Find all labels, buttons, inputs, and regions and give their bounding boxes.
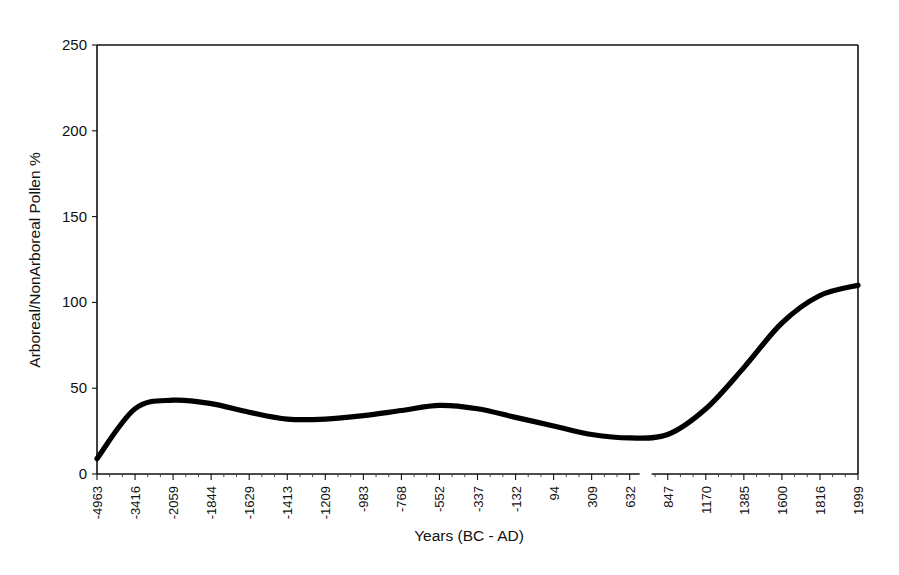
x-axis-tick-label: -983 (356, 486, 371, 512)
x-axis-tick-label: -1209 (318, 486, 333, 519)
y-axis-title: Arboreal/NonArboreal Pollen % (26, 152, 43, 368)
pollen-line-chart: 050100150200250 -4963-3416-2059-1844-162… (0, 0, 899, 575)
y-axis-tick-label: 50 (70, 379, 87, 396)
x-axis-tick-label: -1413 (280, 486, 295, 519)
x-axis-tick-label: 94 (547, 486, 562, 500)
x-axis-ticks (97, 474, 858, 480)
x-axis-tick-label: 1170 (699, 486, 714, 514)
x-axis-tick-label: -3416 (128, 486, 143, 519)
y-axis-tick-labels: 050100150200250 (62, 36, 87, 482)
x-axis-tick-label: 632 (623, 486, 638, 508)
x-axis-tick-label: -2059 (166, 486, 181, 519)
x-axis-tick-label: 1816 (813, 486, 828, 515)
y-axis-tick-label: 0 (79, 465, 87, 482)
x-axis-tick-label: -1844 (204, 486, 219, 519)
figure-container: 050100150200250 -4963-3416-2059-1844-162… (0, 0, 899, 575)
page-caption-partial (0, 559, 899, 573)
x-axis-tick-label: -4963 (90, 486, 105, 519)
y-axis-tick-label: 200 (62, 122, 87, 139)
y-axis-tick-label: 250 (62, 36, 87, 53)
x-axis-tick-label: -768 (394, 486, 409, 512)
x-axis-tick-label: 847 (661, 486, 676, 508)
x-axis-tick-label: -337 (471, 486, 486, 512)
x-axis-tick-label: 1385 (737, 486, 752, 515)
y-axis-tick-label: 150 (62, 208, 87, 225)
x-axis-tick-label: 309 (585, 486, 600, 508)
x-axis-tick-label: -132 (509, 486, 524, 512)
x-axis-tick-label: 1999 (851, 486, 866, 515)
x-axis-tick-labels: -4963-3416-2059-1844-1629-1413-1209-983-… (90, 486, 866, 519)
x-axis-tick-label: -552 (432, 486, 447, 512)
pollen-data-curve (97, 285, 858, 458)
x-axis-tick-label: -1629 (242, 486, 257, 519)
y-axis-tick-label: 100 (62, 293, 87, 310)
x-axis-title: Years (BC - AD) (414, 527, 524, 544)
x-axis-tick-label: 1600 (775, 486, 790, 515)
